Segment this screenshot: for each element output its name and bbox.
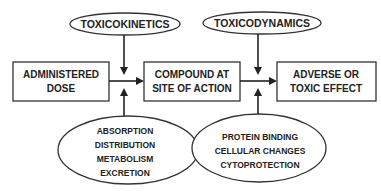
- up-arrow-cellular: [254, 88, 262, 114]
- toxicology-flow-diagram: TOXICOKINETICS TOXICODYNAMICS ADMINISTER…: [0, 0, 381, 194]
- adme-item-absorption: ABSORPTION: [97, 126, 154, 136]
- down-arrow-kinetics: [120, 35, 128, 75]
- administered-dose-line1: ADMINISTERED: [23, 69, 99, 80]
- adverse-effect-line1: ADVERSE OR: [293, 69, 360, 80]
- cellular-effects-ellipse: PROTEIN BINDING CELLULAR CHANGES CYTOPRO…: [192, 114, 326, 182]
- administered-dose-line2: DOSE: [47, 83, 76, 94]
- adme-ellipse: ABSORPTION DISTRIBUTION METABOLISM EXCRE…: [58, 116, 198, 184]
- administered-dose-box: ADMINISTERED DOSE: [13, 62, 109, 101]
- compound-site-line1: COMPOUND AT: [155, 69, 229, 80]
- adme-item-metabolism: METABOLISM: [97, 154, 154, 164]
- compound-site-box: COMPOUND AT SITE OF ACTION: [144, 62, 240, 101]
- adme-item-excretion: EXCRETION: [100, 168, 150, 178]
- toxicodynamics-ellipse: TOXICODYNAMICS: [203, 12, 321, 34]
- right-arrow-dose-to-site: [109, 77, 144, 85]
- cellular-item-protein-binding: PROTEIN BINDING: [222, 132, 298, 142]
- cellular-item-cytoprotection: CYTOPROTECTION: [220, 160, 299, 170]
- up-arrow-adme: [120, 88, 128, 116]
- down-arrow-dynamics: [254, 34, 262, 75]
- toxicodynamics-label: TOXICODYNAMICS: [214, 17, 310, 29]
- adverse-effect-box: ADVERSE OR TOXIC EFFECT: [277, 62, 376, 101]
- toxicokinetics-ellipse: TOXICOKINETICS: [70, 13, 180, 35]
- right-arrow-site-to-effect: [240, 77, 277, 85]
- cellular-item-cellular-changes: CELLULAR CHANGES: [215, 146, 306, 156]
- compound-site-line2: SITE OF ACTION: [152, 83, 232, 94]
- adverse-effect-line2: TOXIC EFFECT: [290, 83, 362, 94]
- toxicokinetics-label: TOXICOKINETICS: [80, 18, 169, 30]
- adme-item-distribution: DISTRIBUTION: [95, 140, 155, 150]
